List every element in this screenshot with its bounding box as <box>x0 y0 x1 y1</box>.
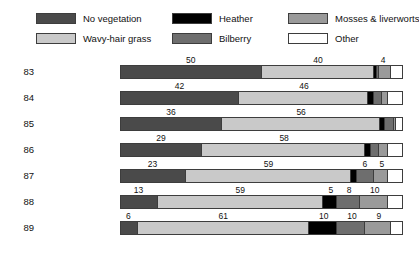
bar-segment <box>337 196 359 208</box>
bar-value-label: 4 <box>381 56 386 65</box>
legend-label-heather: Heather <box>219 13 253 24</box>
bar-value-label: 6 <box>126 212 131 221</box>
legend-item-other: Other <box>288 32 359 45</box>
chart-row: 844246 <box>0 82 419 108</box>
y-axis-tick-label: 83 <box>6 67 34 77</box>
legend-item-bilberry: Bilberry <box>172 32 251 45</box>
stacked-bar-chart: No vegetation Wavy-hair grass Heather Bi… <box>0 0 419 255</box>
stacked-bar <box>120 221 403 235</box>
bar-value-labels: 66110109 <box>120 212 403 221</box>
legend-label-other: Other <box>335 33 359 44</box>
chart-row: 853656 <box>0 108 419 134</box>
y-axis-tick-label: 88 <box>6 197 34 207</box>
bar-value-label: 50 <box>186 56 195 65</box>
bar-value-label: 61 <box>219 212 228 221</box>
bar-value-label: 5 <box>328 186 333 195</box>
bar-segment <box>396 118 402 130</box>
bar-value-label: 29 <box>156 134 165 143</box>
stacked-bar <box>120 117 403 131</box>
bar-segment <box>337 222 365 234</box>
legend-label-no-vegetation: No vegetation <box>83 13 142 24</box>
legend-swatch-other <box>288 33 328 44</box>
bar-segment <box>202 144 365 156</box>
legend-swatch-no-vegetation <box>36 13 76 24</box>
bar-value-label: 23 <box>148 160 157 169</box>
bar-segment <box>371 144 379 156</box>
bar-value-label: 9 <box>377 212 382 221</box>
bar-segment <box>121 92 239 104</box>
bar-value-label: 59 <box>236 186 245 195</box>
bar-value-label: 6 <box>362 160 367 169</box>
bar-segment <box>388 92 402 104</box>
bar-value-label: 36 <box>166 108 175 117</box>
bar-value-label: 58 <box>279 134 288 143</box>
bar-value-labels: 235965 <box>120 160 403 169</box>
bar-segment <box>323 196 337 208</box>
bar-segment <box>121 66 262 78</box>
bar-value-label: 42 <box>175 82 184 91</box>
bar-value-label: 5 <box>379 160 384 169</box>
chart-row: 8813595810 <box>0 186 419 212</box>
stacked-bar <box>120 143 403 157</box>
bar-value-labels: 50404 <box>120 56 403 65</box>
bar-value-label: 10 <box>347 212 356 221</box>
bar-segment <box>121 118 222 130</box>
stacked-bar <box>120 65 403 79</box>
bar-segment <box>121 222 138 234</box>
bar-value-label: 56 <box>296 108 305 117</box>
y-axis-tick-label: 87 <box>6 171 34 181</box>
plot-area: 8350404844246853656862958872359658813595… <box>0 56 419 255</box>
bar-value-labels: 13595810 <box>120 186 403 195</box>
bar-segment <box>374 92 382 104</box>
bar-segment <box>379 144 387 156</box>
legend-label-mosses-liverworts: Mosses & liverworts <box>335 13 419 24</box>
bar-segment <box>121 170 186 182</box>
bar-value-label: 40 <box>313 56 322 65</box>
chart-row: 862958 <box>0 134 419 160</box>
bar-segment <box>391 66 402 78</box>
bar-segment <box>158 196 324 208</box>
stacked-bar <box>120 169 403 183</box>
legend-label-wavy-hair-grass: Wavy-hair grass <box>83 33 151 44</box>
stacked-bar <box>120 91 403 105</box>
bar-value-label: 10 <box>319 212 328 221</box>
bar-value-labels: 3656 <box>120 108 403 117</box>
legend-swatch-bilberry <box>172 33 212 44</box>
legend-item-heather: Heather <box>172 12 253 25</box>
chart-row: 87235965 <box>0 160 419 186</box>
bar-segment <box>239 92 368 104</box>
stacked-bar <box>120 195 403 209</box>
chart-row: 8966110109 <box>0 212 419 238</box>
y-axis-tick-label: 84 <box>6 93 34 103</box>
bar-value-label: 59 <box>264 160 273 169</box>
bar-segment <box>385 118 393 130</box>
legend-label-bilberry: Bilberry <box>219 33 251 44</box>
bar-segment <box>388 144 402 156</box>
bar-segment <box>388 196 402 208</box>
bar-value-label: 13 <box>134 186 143 195</box>
bar-segment <box>379 66 390 78</box>
bar-segment <box>357 170 374 182</box>
bar-value-label: 46 <box>299 82 308 91</box>
bar-segment <box>391 222 402 234</box>
bar-value-labels: 2958 <box>120 134 403 143</box>
legend-swatch-wavy-hair-grass <box>36 33 76 44</box>
bar-value-label: 10 <box>370 186 379 195</box>
legend-item-mosses-liverworts: Mosses & liverworts <box>288 12 419 25</box>
legend-item-wavy-hair-grass: Wavy-hair grass <box>36 32 151 45</box>
y-axis-tick-label: 89 <box>6 223 34 233</box>
bar-value-label: 8 <box>347 186 352 195</box>
bar-segment <box>365 222 390 234</box>
bar-segment <box>262 66 374 78</box>
legend-swatch-mosses-liverworts <box>288 13 328 24</box>
y-axis-tick-label: 85 <box>6 119 34 129</box>
chart-legend: No vegetation Wavy-hair grass Heather Bi… <box>36 12 412 52</box>
bar-value-labels: 4246 <box>120 82 403 91</box>
bar-segment <box>360 196 388 208</box>
bar-segment <box>138 222 309 234</box>
bar-segment <box>121 196 158 208</box>
bar-segment <box>186 170 352 182</box>
legend-item-no-vegetation: No vegetation <box>36 12 142 25</box>
legend-swatch-heather <box>172 13 212 24</box>
bar-segment <box>309 222 337 234</box>
